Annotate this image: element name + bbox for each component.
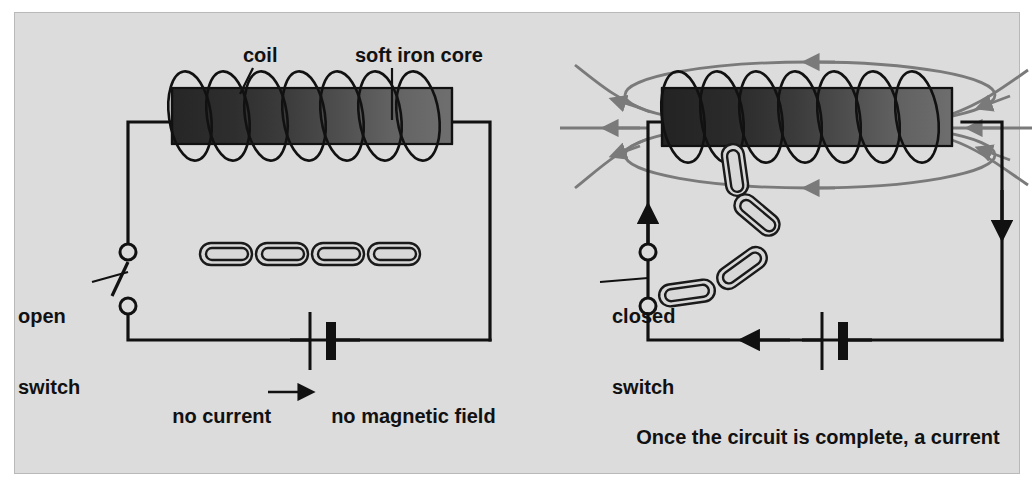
current-direction-arrows xyxy=(648,190,1002,340)
paper-clip xyxy=(720,143,749,198)
paper-clip xyxy=(200,243,252,265)
open-switch-label-line2: switch xyxy=(18,376,80,400)
paper-clip xyxy=(256,243,308,265)
paper-clip xyxy=(368,243,420,265)
paper-clip xyxy=(713,243,771,294)
soft-iron-core-label: soft iron core xyxy=(355,44,483,68)
right-panel-caption: Once the circuit is complete, a current … xyxy=(608,378,1028,489)
caption-line-1: Once the circuit is complete, a current xyxy=(608,425,1028,450)
open-switch-label: open switch xyxy=(18,258,80,447)
soft-iron-core-left xyxy=(172,88,452,144)
coil-label: coil xyxy=(243,44,277,68)
open-switch-label-line1: open xyxy=(18,305,80,329)
paper-clip-chain-right xyxy=(658,143,784,308)
left-circuit-group xyxy=(92,68,490,392)
paper-clip xyxy=(730,190,784,240)
paper-clip xyxy=(312,243,364,265)
electromagnet-figure: coil soft iron core open switch closed s… xyxy=(0,0,1034,489)
no-current-result-text: no currentno magnetic field xyxy=(150,381,496,452)
paper-clip-chain-left xyxy=(200,243,420,265)
right-circuit-wires xyxy=(648,122,1002,340)
no-magnetic-field-text: no magnetic field xyxy=(331,405,495,427)
open-switch[interactable] xyxy=(112,244,136,314)
no-current-text: no current xyxy=(172,405,271,427)
closed-switch-label-line1: closed xyxy=(612,305,675,329)
